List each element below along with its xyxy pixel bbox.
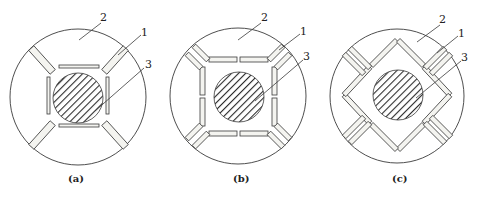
- label-2: 2: [439, 13, 446, 26]
- bar-bottom-right: [240, 131, 268, 136]
- bar-left-upper: [200, 67, 205, 95]
- figure-canvas: 2 1 3 (a): [0, 0, 477, 197]
- bar-left-lower: [200, 98, 205, 126]
- caption-b: (b): [233, 173, 249, 184]
- bar-left: [47, 77, 50, 114]
- hatched-core-3: [214, 72, 264, 122]
- bar-bottom-left: [209, 131, 237, 136]
- corner-bars-top-left: [185, 44, 210, 70]
- label-3: 3: [145, 58, 152, 71]
- leader-line-3: [95, 68, 144, 111]
- label-3: 3: [461, 51, 468, 64]
- leader-line-2: [238, 23, 261, 40]
- bar-top: [59, 65, 99, 68]
- bar-top-right: [240, 57, 268, 62]
- panel-b: 2 1 3 (b): [170, 11, 310, 184]
- corner-bars-bottom-left: [185, 123, 210, 149]
- bar-top-left: [209, 57, 237, 62]
- leader-line-1: [279, 34, 300, 50]
- diagonal-bar-bottom-right: [102, 121, 129, 149]
- label-1: 1: [458, 27, 465, 40]
- bar-right: [106, 77, 109, 114]
- bar-right-lower: [272, 98, 277, 126]
- panel-a: 2 1 3 (a): [10, 11, 152, 184]
- hatched-core-3: [53, 73, 103, 123]
- hatched-core-3: [373, 70, 423, 120]
- bar-right-upper: [272, 67, 277, 95]
- panel-c: 2 1 3 (c): [330, 13, 468, 184]
- bar-bottom: [59, 124, 99, 127]
- diagonal-bar-bottom-left: [29, 121, 56, 149]
- label-1: 1: [300, 25, 307, 38]
- diagonal-bar-top-left: [29, 46, 56, 74]
- label-1: 1: [141, 26, 148, 39]
- label-2: 2: [261, 11, 268, 24]
- label-2: 2: [100, 11, 107, 24]
- caption-a: (a): [68, 173, 84, 184]
- corner-bars-bottom-right: [267, 123, 292, 149]
- caption-c: (c): [392, 173, 408, 184]
- label-3: 3: [303, 50, 310, 63]
- corner-bars-top-right: [267, 44, 292, 70]
